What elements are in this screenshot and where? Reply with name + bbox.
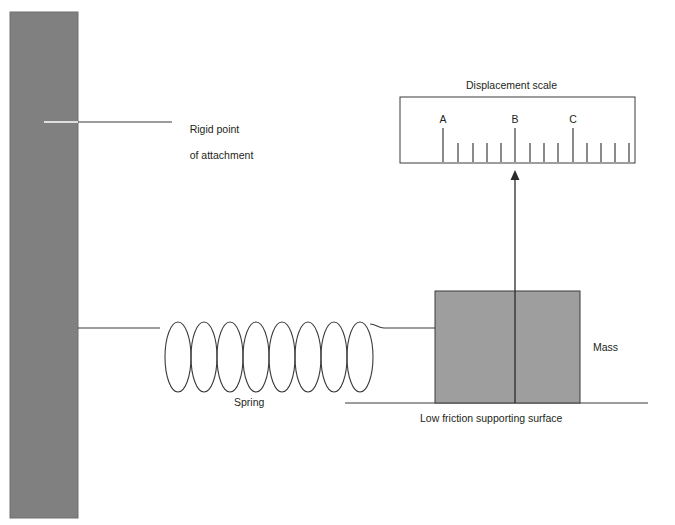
scale-tick-label-a: A [433, 113, 453, 125]
spring-label: Spring [234, 396, 264, 409]
rigid-wall [10, 12, 78, 518]
physics-diagram-canvas: Rigid point of attachment Spring Mass Lo… [0, 0, 675, 525]
scale-tick-label-b: B [505, 113, 525, 125]
rigid-point-label-line1: Rigid point [190, 123, 240, 135]
mass-block [435, 291, 580, 403]
diagram-vector-layer [0, 0, 675, 525]
scale-tick-label-c: C [563, 113, 583, 125]
rigid-point-label: Rigid point of attachment [178, 110, 253, 175]
displacement-scale-box [400, 97, 635, 163]
displacement-scale-title: Displacement scale [466, 79, 557, 92]
page-frame [1, 1, 675, 525]
mass-label: Mass [593, 341, 618, 354]
rigid-point-label-line2: of attachment [190, 149, 254, 161]
supporting-surface-label: Low friction supporting surface [420, 412, 562, 425]
